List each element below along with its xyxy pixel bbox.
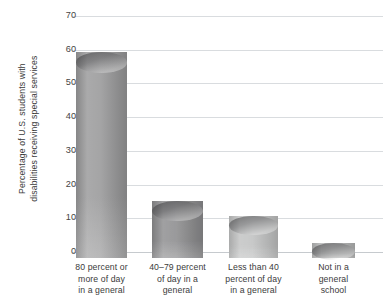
x-axis-label-line: more of day xyxy=(59,274,144,286)
x-axis-category-label: 80 percent ormore of dayin a general xyxy=(59,262,144,297)
x-axis-label-line: 80 percent or xyxy=(59,262,144,274)
x-axis-category-label: Less than 40percent of dayin a general xyxy=(212,262,295,297)
gridline xyxy=(72,50,383,51)
bar xyxy=(152,201,203,258)
x-axis-label-line: school xyxy=(295,285,372,297)
bar-body xyxy=(312,243,355,258)
x-axis-label-line: Less than 40 xyxy=(212,262,295,274)
bar xyxy=(76,52,127,258)
y-axis-title-line-1: Percentage of U.S. students with xyxy=(16,56,28,202)
bar-chart: Percentage of U.S. students with disabil… xyxy=(0,0,383,297)
x-axis-labels: 80 percent ormore of dayin a general40–7… xyxy=(56,259,383,297)
y-axis-tick-label: 0 xyxy=(56,247,76,256)
x-axis-label-line: general xyxy=(135,285,220,297)
x-axis-label-line: percent of day xyxy=(212,274,295,286)
x-axis-label-line: general xyxy=(295,274,372,286)
y-axis-tick-label: 10 xyxy=(56,214,76,223)
gridline xyxy=(72,16,383,17)
bar-body xyxy=(229,216,278,258)
y-axis-title: Percentage of U.S. students with disabil… xyxy=(0,0,56,258)
bar xyxy=(312,243,355,258)
y-axis-tick-label: 20 xyxy=(56,180,76,189)
y-axis-tick-label: 70 xyxy=(56,11,76,20)
bar-body xyxy=(76,52,127,258)
x-axis-label-line: in a general xyxy=(59,285,144,297)
y-axis-title-line-2: disabilities receiving special services xyxy=(28,56,40,202)
y-axis-tick-label: 40 xyxy=(56,113,76,122)
plot-area: 010203040506070 xyxy=(56,0,383,258)
x-axis-label-line: 40–79 percent xyxy=(135,262,220,274)
bar-body xyxy=(152,201,203,258)
x-axis-category-label: 40–79 percentof day in ageneral xyxy=(135,262,220,297)
bar xyxy=(229,216,278,258)
x-axis-label-line: Not in a xyxy=(295,262,372,274)
y-axis-tick-label: 50 xyxy=(56,79,76,88)
y-axis-tick-label: 60 xyxy=(56,45,76,54)
y-axis-tick-label: 30 xyxy=(56,146,76,155)
x-axis-label-line: in a general xyxy=(212,285,295,297)
x-axis-label-line: of day in a xyxy=(135,274,220,286)
x-axis-category-label: Not in ageneralschool xyxy=(295,262,372,297)
